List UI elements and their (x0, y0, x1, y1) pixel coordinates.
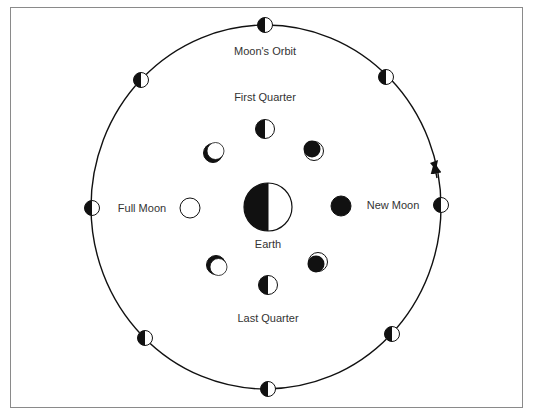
moon-phases-diagram: Moon's Orbit First Quarter Full Moon New… (0, 0, 533, 414)
label-first-quarter: First Quarter (234, 91, 296, 103)
label-last-quarter: Last Quarter (237, 312, 298, 324)
orbit-moon-lower-right (385, 327, 400, 342)
orbit-moon-top (258, 18, 273, 33)
orbit-moon-right (434, 198, 449, 213)
orbit-moon-left (85, 201, 100, 216)
label-new-moon: New Moon (367, 199, 420, 211)
label-full-moon: Full Moon (118, 202, 166, 214)
orbit-moon-lower-left (138, 331, 153, 346)
phase-waxing-crescent (304, 141, 324, 161)
phase-waxing-gibbous (204, 143, 225, 163)
label-moons-orbit: Moon's Orbit (234, 45, 296, 57)
phase-waning-gibbous (207, 256, 228, 276)
orbit-moon-bottom (261, 382, 276, 397)
phase-new-moon (331, 196, 351, 216)
phase-waning-crescent (308, 253, 328, 273)
orbit-moon-upper-right (379, 70, 394, 85)
earth (244, 183, 292, 231)
diagram-canvas: Moon's Orbit First Quarter Full Moon New… (0, 0, 533, 414)
phase-full-moon (180, 198, 200, 218)
orbit-moon-upper-left (134, 73, 149, 88)
phase-last-quarter (259, 276, 278, 295)
phase-first-quarter (256, 120, 275, 139)
label-earth: Earth (255, 238, 281, 250)
